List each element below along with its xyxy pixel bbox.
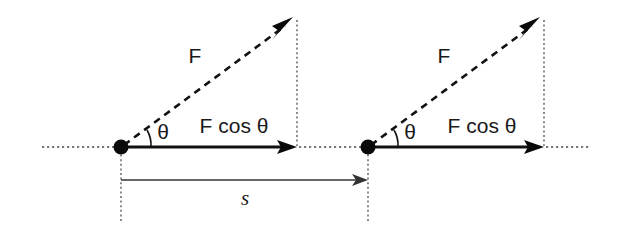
angle-label-left: θ bbox=[157, 120, 169, 143]
component-label-right: F cos θ bbox=[448, 114, 517, 137]
force-arrowhead-left bbox=[272, 17, 293, 40]
component-label-left: F cos θ bbox=[200, 114, 269, 137]
force-label-right: F bbox=[438, 44, 451, 67]
physics-diagram-container: F F cos θ θ s bbox=[0, 0, 618, 230]
figure-final-position: F F cos θ θ bbox=[361, 17, 590, 223]
particle-dot-initial bbox=[114, 140, 129, 155]
force-displacement-diagram: F F cos θ θ s bbox=[0, 0, 618, 230]
angle-arc-left bbox=[147, 130, 151, 147]
angle-arc-right bbox=[394, 130, 398, 147]
force-arrowhead-right bbox=[519, 17, 540, 40]
force-label-left: F bbox=[189, 44, 202, 67]
particle-dot-final bbox=[361, 140, 376, 155]
angle-label-right: θ bbox=[404, 120, 416, 143]
figure-initial-position: F F cos θ θ bbox=[42, 17, 297, 223]
displacement-label: s bbox=[241, 186, 249, 210]
displacement-measure: s bbox=[121, 174, 368, 210]
